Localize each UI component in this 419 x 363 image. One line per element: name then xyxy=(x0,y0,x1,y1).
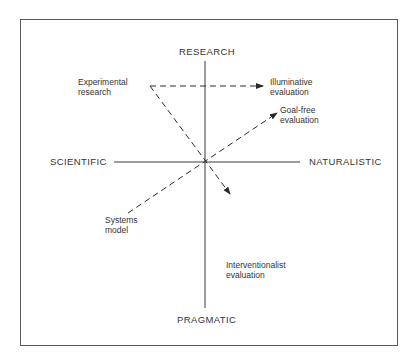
node-experimental-research: Experimental research xyxy=(78,77,128,97)
node-line: evaluation xyxy=(280,115,319,125)
node-line: research xyxy=(78,87,128,97)
axis-label-naturalistic: NATURALISTIC xyxy=(309,156,382,167)
axis-label-pragmatic: PRAGMATIC xyxy=(177,314,236,325)
node-illuminative-evaluation: Illuminative evaluation xyxy=(270,77,313,97)
arrow-systems-to-goalfree xyxy=(128,113,277,213)
node-line: evaluation xyxy=(226,270,286,280)
node-line: Illuminative xyxy=(270,77,313,87)
node-line: model xyxy=(105,225,138,235)
axis-label-scientific: SCIENTIFIC xyxy=(50,156,107,167)
node-line: evaluation xyxy=(270,87,313,97)
node-goal-free-evaluation: Goal-free evaluation xyxy=(280,105,319,125)
node-line: Systems xyxy=(105,215,138,225)
node-line: Interventionalist xyxy=(226,260,286,270)
arrow-experimental-to-interventionalist xyxy=(150,86,230,194)
node-interventionalist-evaluation: Interventionalist evaluation xyxy=(226,260,286,280)
node-line: Experimental xyxy=(78,77,128,87)
axis-label-research: RESEARCH xyxy=(179,46,235,57)
node-line: Goal-free xyxy=(280,105,319,115)
node-systems-model: Systems model xyxy=(105,215,138,235)
